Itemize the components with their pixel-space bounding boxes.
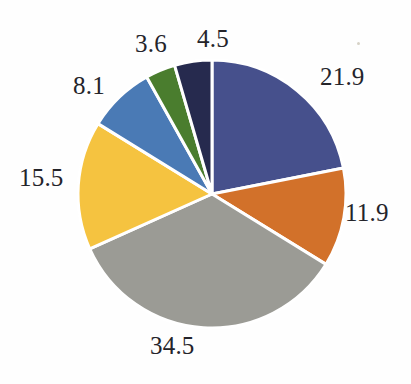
pie-chart-figure: 21.9 11.9 34.5 15.5 8.1 3.6 4.5 (0, 0, 411, 384)
pie-label-8-1: 8.1 (73, 73, 105, 98)
pie-label-15-5: 15.5 (19, 165, 64, 190)
pie-slice-group (78, 60, 346, 328)
pie-label-4-5: 4.5 (197, 26, 229, 51)
pie-chart-svg (0, 0, 411, 384)
pie-label-34-5: 34.5 (150, 333, 195, 358)
scan-speck-artifact (357, 42, 360, 45)
pie-label-11-9: 11.9 (345, 200, 389, 225)
pie-label-3-6: 3.6 (135, 31, 167, 56)
pie-label-21-9: 21.9 (320, 64, 365, 89)
